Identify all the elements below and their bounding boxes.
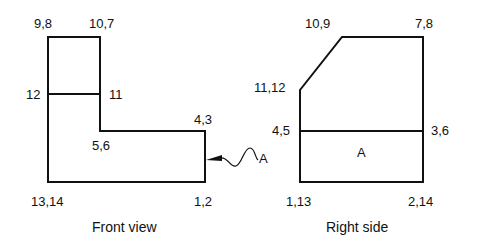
- label-front-top-left: 9,8: [34, 16, 52, 31]
- label-front-bottom-left: 13,14: [31, 194, 64, 209]
- label-right-mid-right: 3,6: [431, 123, 449, 138]
- label-right-top-left: 10,9: [305, 16, 330, 31]
- front-view-outline: [48, 37, 205, 182]
- front-view: 9,8 10,7 12 11 4,3 5,6 13,14 1,2 A Front…: [26, 16, 268, 235]
- front-view-title: Front view: [92, 219, 157, 235]
- label-right-mid-left: 4,5: [272, 123, 290, 138]
- leader-arrowhead: [206, 155, 222, 161]
- label-front-step-inner: 5,6: [92, 138, 110, 153]
- label-front-mid-right: 11: [109, 87, 123, 102]
- label-front-bottom-right: 1,2: [194, 194, 212, 209]
- label-right-top-right: 7,8: [415, 16, 433, 31]
- label-front-mid-left: 12: [26, 87, 40, 102]
- leader-label-a: A: [259, 151, 268, 166]
- face-label-a: A: [357, 145, 366, 160]
- diagram-canvas: 9,8 10,7 12 11 4,3 5,6 13,14 1,2 A Front…: [0, 0, 478, 242]
- label-front-step-outer: 4,3: [194, 112, 212, 127]
- right-side-view: 10,9 7,8 11,12 4,5 3,6 A 1,13 2,14 Right…: [254, 16, 449, 235]
- leader-line: [220, 148, 258, 166]
- right-view-outline: [300, 37, 423, 182]
- label-right-bottom-left: 1,13: [286, 194, 311, 209]
- right-view-title: Right side: [326, 219, 388, 235]
- label-right-bottom-right: 2,14: [408, 194, 433, 209]
- label-right-chamfer: 11,12: [254, 80, 286, 95]
- label-front-top-right: 10,7: [89, 16, 114, 31]
